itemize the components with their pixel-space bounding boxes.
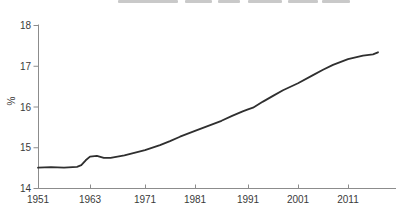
x-axis-tick-labels: 1951196319711981199120012011 — [27, 194, 359, 205]
y-axis-title: % — [6, 96, 17, 105]
x-tick-label: 1951 — [27, 194, 50, 205]
line-chart: 1817161514 1951196319711981199120012011 … — [0, 0, 399, 218]
y-tick-label: 15 — [20, 142, 32, 153]
y-tick-label: 18 — [20, 20, 32, 31]
x-tick-label: 1971 — [134, 194, 157, 205]
x-tick-label: 1981 — [184, 194, 207, 205]
y-tick-label: 14 — [20, 183, 32, 194]
y-axis-ticks — [34, 26, 39, 189]
x-tick-label: 2001 — [287, 194, 310, 205]
x-axis-ticks — [39, 185, 349, 189]
data-series-line — [38, 52, 378, 167]
x-tick-label: 1963 — [79, 194, 102, 205]
y-tick-label: 16 — [20, 102, 32, 113]
y-tick-label: 17 — [20, 61, 32, 72]
x-tick-label: 2011 — [337, 194, 359, 205]
chart-figure: 1817161514 1951196319711981199120012011 … — [0, 0, 399, 218]
y-axis-tick-labels: 1817161514 — [20, 20, 32, 194]
x-tick-label: 1991 — [237, 194, 260, 205]
